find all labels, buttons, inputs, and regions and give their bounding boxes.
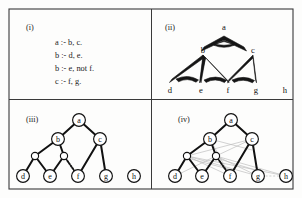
node-iii-f-label: f: [77, 172, 80, 181]
panel-ii-tag: (ii): [165, 23, 175, 32]
node-ii-a: a: [222, 22, 226, 32]
node-iii-inner-2: [60, 152, 67, 159]
node-ii-g: g: [254, 85, 259, 95]
panel-iv: (iv): [169, 114, 293, 183]
node-iv-b-label: b: [208, 135, 212, 144]
rule-line-2: b :- d, e.: [55, 51, 83, 60]
node-iv-h-label: h: [284, 172, 288, 181]
node-iii-inner-1: [31, 152, 38, 159]
figure-frame: [9, 9, 293, 189]
panel-iii: (iii) a b c: [17, 114, 141, 183]
hyperedge-b-ef-arc: [204, 77, 227, 83]
hyperedge-c-fg-arc: [232, 77, 255, 82]
node-iv-inner-1: [183, 152, 190, 159]
rule-line-1: a :- b, c.: [55, 38, 82, 47]
node-ii-h: h: [283, 85, 288, 95]
node-iii-h-label: h: [132, 172, 136, 181]
node-iv-f-label: f: [229, 172, 232, 181]
node-iii-b-label: b: [56, 135, 60, 144]
panel-ii: (ii) a b c d e f g h: [165, 22, 288, 95]
panel-i-tag: (i): [26, 23, 34, 32]
figure-svg: (i) a :- b, c. b :- d, e. b :- e, not f.…: [0, 0, 302, 198]
node-iv-a-label: a: [229, 116, 233, 125]
node-iv-d-label: d: [173, 172, 177, 181]
panel-iii-edges: [23, 120, 106, 176]
node-ii-f: f: [227, 85, 230, 95]
hyperedge-b-de-arc: [176, 76, 199, 82]
node-ii-b: b: [201, 45, 205, 55]
rule-line-3: b :- e, not f.: [55, 64, 94, 73]
node-ii-d: d: [168, 85, 173, 95]
panel-i: (i) a :- b, c. b :- d, e. b :- e, not f.…: [26, 23, 94, 86]
node-ii-e: e: [199, 85, 203, 95]
node-iii-a-label: a: [77, 116, 81, 125]
node-iv-inner-2: [212, 152, 219, 159]
node-iv-e-label: e: [200, 172, 204, 181]
node-iii-d-label: d: [21, 172, 25, 181]
node-iii-g-label: g: [104, 172, 108, 181]
node-ii-c: c: [251, 45, 255, 55]
node-iv-g-label: g: [256, 172, 260, 181]
figure-container: (i) a :- b, c. b :- d, e. b :- e, not f.…: [0, 0, 302, 198]
node-iii-e-label: e: [48, 172, 52, 181]
rule-line-4: c :- f, g.: [55, 77, 81, 86]
node-iv-c-label: c: [250, 135, 254, 144]
panel-iv-tag: (iv): [178, 115, 190, 124]
node-iii-c-label: c: [98, 135, 102, 144]
hyperedge-a-bc: [202, 36, 247, 51]
panel-iii-tag: (iii): [26, 115, 39, 124]
